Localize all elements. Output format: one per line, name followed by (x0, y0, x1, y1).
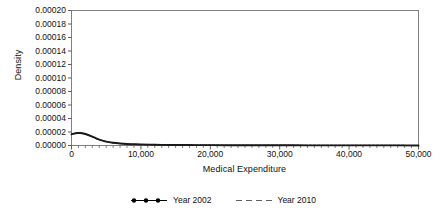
density-chart-figure: Density 0.000000.000020.000040.000060.00… (0, 0, 445, 215)
density-curve-year-2002 (72, 133, 419, 145)
chart-legend: Year 2002 Year 2010 (0, 190, 445, 210)
legend-item-year-2002: Year 2002 (129, 196, 211, 205)
y-axis-ticks (68, 11, 72, 146)
plot-area (0, 0, 445, 215)
dotted-line-marker-icon (129, 196, 169, 205)
plot-frame (72, 11, 419, 146)
legend-item-year-2010: Year 2010 (234, 196, 316, 205)
legend-label-year-2002: Year 2002 (173, 196, 211, 205)
density-curves (72, 133, 419, 145)
legend-label-year-2010: Year 2010 (278, 196, 316, 205)
dashed-line-marker-icon (234, 196, 274, 205)
